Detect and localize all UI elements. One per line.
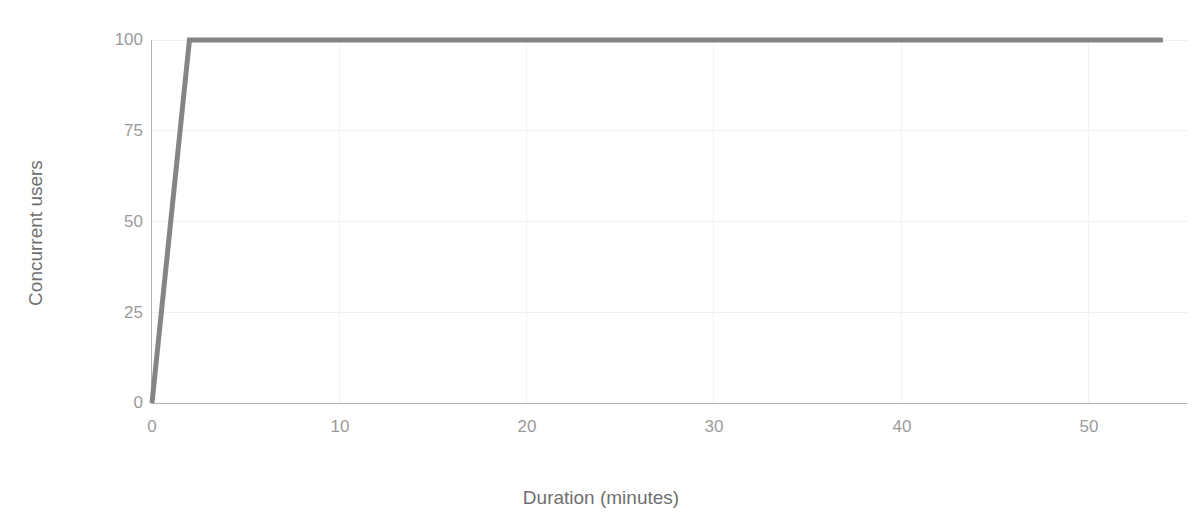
gridline-x-10	[339, 40, 340, 403]
y-tick-label-100: 100	[83, 31, 143, 48]
gridline-y-75	[152, 130, 1187, 131]
gridline-y-100	[152, 40, 1187, 41]
y-tick-label-0: 0	[83, 394, 143, 411]
y-tick-label-75: 75	[83, 122, 143, 139]
x-tick-label-20: 20	[487, 418, 567, 435]
y-tick-label-25: 25	[83, 304, 143, 321]
x-tick-label-0: 0	[112, 418, 192, 435]
concurrent-users-line-chart: 100 75 50 25 0 0 10 20 30 40 50 Concurre…	[0, 0, 1202, 530]
x-tick-label-40: 40	[862, 418, 942, 435]
gridline-x-20	[526, 40, 527, 403]
gridline-x-30	[713, 40, 714, 403]
x-tick-label-50: 50	[1049, 418, 1129, 435]
gridline-y-25	[152, 312, 1187, 313]
x-tick-label-10: 10	[300, 418, 380, 435]
y-axis-title: Concurrent users	[25, 133, 47, 333]
y-axis-line	[151, 40, 152, 404]
gridline-x-40	[901, 40, 902, 403]
x-tick-label-30: 30	[674, 418, 754, 435]
y-tick-label-50: 50	[83, 213, 143, 230]
gridline-y-50	[152, 221, 1187, 222]
x-axis-line	[152, 403, 1187, 404]
gridline-x-50	[1088, 40, 1089, 403]
x-axis-title: Duration (minutes)	[0, 487, 1202, 509]
series-layer	[0, 0, 1202, 530]
